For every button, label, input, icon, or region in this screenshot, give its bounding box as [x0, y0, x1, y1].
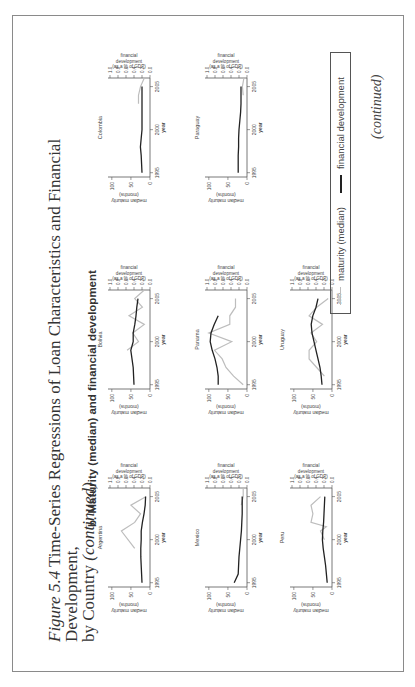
svg-text:financial: financial — [218, 463, 235, 468]
svg-text:0: 0 — [244, 394, 250, 397]
legend-label-maturity: maturity (median) — [335, 207, 346, 281]
svg-text:financial: financial — [303, 265, 320, 270]
svg-text:0.0: 0.0 — [245, 66, 250, 73]
svg-text:(months): (months) — [301, 602, 321, 608]
svg-text:1995: 1995 — [251, 577, 257, 588]
svg-text:2005: 2005 — [251, 491, 257, 502]
svg-text:0: 0 — [244, 592, 250, 595]
svg-text:0.0: 0.0 — [148, 476, 153, 483]
svg-text:year: year — [257, 334, 263, 344]
svg-text:year: year — [160, 334, 166, 344]
svg-text:0: 0 — [147, 592, 153, 595]
svg-text:development: development — [298, 271, 325, 276]
svg-text:financial: financial — [121, 53, 138, 58]
svg-text:1995: 1995 — [154, 577, 160, 588]
svg-text:0.0: 0.0 — [245, 476, 250, 483]
svg-text:year: year — [160, 122, 166, 132]
svg-text:financial: financial — [218, 53, 235, 58]
svg-text:50: 50 — [310, 394, 316, 400]
legend-swatch-financial — [340, 175, 342, 193]
svg-text:2005: 2005 — [251, 81, 257, 92]
continued-note: (continued) — [369, 74, 385, 139]
panel-bolivia: 0501000.00.20.40.60.81.0199520002005year… — [86, 249, 166, 429]
svg-text:0: 0 — [147, 182, 153, 185]
svg-text:0.0: 0.0 — [245, 278, 250, 285]
svg-text:financial: financial — [121, 265, 138, 270]
svg-text:(as a % of GDP): (as a % of GDP) — [294, 276, 328, 281]
legend-swatch-maturity — [340, 287, 341, 305]
svg-text:100: 100 — [291, 592, 297, 601]
panel-colombia: 0501000.00.20.40.60.81.0199520002005year… — [86, 37, 166, 217]
svg-text:development: development — [116, 271, 143, 276]
svg-text:50: 50 — [225, 592, 231, 598]
panel-peru: 0501000.00.20.40.60.81.0199520002005year… — [268, 447, 348, 627]
svg-text:1995: 1995 — [154, 379, 160, 390]
svg-text:financial: financial — [218, 265, 235, 270]
svg-text:development: development — [213, 469, 240, 474]
svg-text:0.0: 0.0 — [148, 278, 153, 285]
panel-paraguay: 0501000.00.20.40.60.81.0199520002005year… — [183, 37, 263, 217]
svg-text:1995: 1995 — [336, 577, 342, 588]
svg-text:100: 100 — [109, 592, 115, 601]
rotated-page: Figure 5.4 Time-Series Regressions of Lo… — [0, 0, 415, 687]
svg-text:2005: 2005 — [154, 293, 160, 304]
svg-text:development: development — [298, 469, 325, 474]
svg-text:0.0: 0.0 — [330, 476, 335, 483]
svg-text:Uruguay: Uruguay — [279, 329, 285, 350]
svg-text:50: 50 — [225, 182, 231, 188]
svg-text:0.0: 0.0 — [148, 66, 153, 73]
legend-label-financial: financial development — [335, 77, 346, 169]
svg-text:financial: financial — [121, 463, 138, 468]
svg-text:0: 0 — [244, 182, 250, 185]
svg-text:(months): (months) — [216, 404, 236, 410]
svg-text:(as a % of GDP): (as a % of GDP) — [209, 276, 243, 281]
svg-text:development: development — [213, 271, 240, 276]
svg-text:Peru: Peru — [279, 532, 285, 544]
panel-argentina: 0501000.00.20.40.60.81.0199520002005year… — [86, 447, 166, 627]
svg-text:(as a % of GDP): (as a % of GDP) — [112, 474, 146, 479]
svg-text:(months): (months) — [119, 404, 139, 410]
svg-text:2005: 2005 — [154, 81, 160, 92]
svg-text:(as a % of GDP): (as a % of GDP) — [209, 64, 243, 69]
svg-text:100: 100 — [206, 394, 212, 403]
svg-text:year: year — [342, 532, 348, 542]
svg-text:development: development — [116, 469, 143, 474]
svg-text:100: 100 — [109, 182, 115, 191]
svg-text:year: year — [257, 532, 263, 542]
svg-text:100: 100 — [206, 592, 212, 601]
svg-text:50: 50 — [225, 394, 231, 400]
svg-text:Colombia: Colombia — [97, 115, 103, 139]
svg-text:100: 100 — [206, 182, 212, 191]
svg-text:100: 100 — [109, 394, 115, 403]
svg-text:(as a % of GDP): (as a % of GDP) — [112, 64, 146, 69]
panel-panama: 0501000.00.20.40.60.81.0199520002005year… — [183, 249, 263, 429]
svg-text:Paraguay: Paraguay — [194, 115, 200, 139]
svg-text:year: year — [257, 122, 263, 132]
svg-text:1995: 1995 — [251, 167, 257, 178]
svg-text:Bolivia: Bolivia — [97, 330, 103, 347]
svg-text:Argentina: Argentina — [97, 525, 103, 549]
chart-legend: maturity (median) financial development — [330, 52, 351, 314]
svg-text:financial: financial — [303, 463, 320, 468]
figure-title-line1: Time-Series Regressions of Loan Characte… — [45, 139, 81, 642]
svg-text:0: 0 — [329, 394, 335, 397]
svg-text:Panama: Panama — [194, 328, 200, 349]
svg-text:50: 50 — [128, 592, 134, 598]
svg-text:year: year — [160, 532, 166, 542]
svg-text:(as a % of GDP): (as a % of GDP) — [294, 474, 328, 479]
svg-text:0: 0 — [329, 592, 335, 595]
svg-text:2005: 2005 — [251, 293, 257, 304]
svg-text:2005: 2005 — [336, 491, 342, 502]
svg-text:(as a % of GDP): (as a % of GDP) — [209, 474, 243, 479]
svg-text:year: year — [342, 334, 348, 344]
svg-text:50: 50 — [310, 592, 316, 598]
svg-text:(months): (months) — [119, 192, 139, 198]
panel-mexico: 0501000.00.20.40.60.81.0199520002005year… — [183, 447, 263, 627]
svg-text:(as a % of GDP): (as a % of GDP) — [112, 276, 146, 281]
svg-text:(months): (months) — [216, 192, 236, 198]
svg-text:(months): (months) — [119, 602, 139, 608]
svg-text:2005: 2005 — [154, 491, 160, 502]
svg-text:100: 100 — [291, 394, 297, 403]
svg-text:Mexico: Mexico — [194, 529, 200, 546]
svg-text:50: 50 — [128, 394, 134, 400]
